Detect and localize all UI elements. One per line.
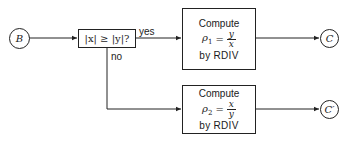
fraction: y x xyxy=(227,30,236,49)
denominator: y xyxy=(227,110,236,119)
equals-sign: = xyxy=(215,104,223,115)
rho-symbol: ρ2 xyxy=(202,103,212,117)
formula-rho1: ρ1 = y x xyxy=(202,30,236,49)
equals-sign: = xyxy=(215,34,223,45)
yes-label: yes xyxy=(139,27,155,37)
no-label: no xyxy=(111,52,122,62)
compute-box-rho2: Compute ρ2 = x y by RDIV xyxy=(182,85,256,134)
compute-box-rho1: Compute ρ1 = y x by RDIV xyxy=(182,8,256,70)
numerator: y xyxy=(227,30,236,40)
connector-c: C xyxy=(320,29,339,48)
formula-rho2: ρ2 = x y xyxy=(202,100,236,119)
connector-c-label: C xyxy=(326,33,334,44)
compute-method: by RDIV xyxy=(199,50,238,61)
connector-c-prime-label: C′ xyxy=(325,104,335,115)
compute-title: Compute xyxy=(199,18,240,29)
compute-title: Compute xyxy=(199,88,240,99)
connector-b-label: B xyxy=(16,33,23,44)
connector-c-prime: C′ xyxy=(320,100,339,119)
connector-lines xyxy=(0,0,359,145)
decision-box: |x| ≥ |y|? xyxy=(78,29,136,48)
connector-b: B xyxy=(9,28,30,49)
rho-symbol: ρ1 xyxy=(202,32,212,46)
decision-label: |x| ≥ |y|? xyxy=(85,33,130,44)
compute-method: by RDIV xyxy=(199,120,238,131)
denominator: x xyxy=(227,40,236,49)
fraction: x y xyxy=(227,100,236,119)
